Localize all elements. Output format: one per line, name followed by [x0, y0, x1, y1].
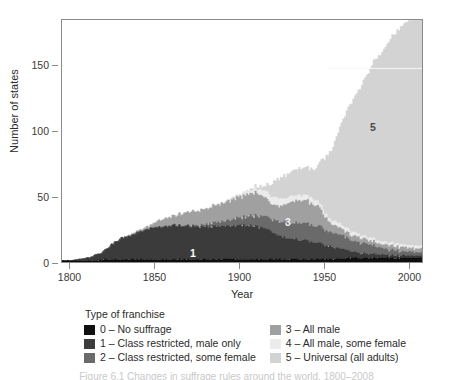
legend-label-2: 2 – Class restricted, some female	[100, 352, 256, 363]
x-tick-mark	[69, 263, 70, 269]
y-axis-title: Number of states	[8, 41, 20, 181]
legend-swatch-icon-3	[270, 325, 281, 335]
x-tick-label: 1950	[313, 271, 336, 283]
legend-label-0: 0 – No suffrage	[100, 324, 172, 335]
x-axis-title: Year	[61, 288, 423, 300]
legend-item-0[interactable]: 0 – No suffrage	[84, 324, 256, 335]
stacked-area-chart	[62, 20, 422, 262]
y-axis: Number of states 050100150	[0, 0, 61, 282]
x-tick-mark	[239, 263, 240, 269]
legend-swatch-icon-5	[270, 353, 281, 363]
legend-item-3[interactable]: 3 – All male	[270, 324, 406, 335]
legend-item-4[interactable]: 4 – All male, some female	[270, 338, 406, 349]
legend-item-5[interactable]: 5 – Universal (all adults)	[270, 352, 406, 363]
legend-title: Type of franchise	[85, 308, 444, 320]
legend-column-left: 0 – No suffrage1 – Class restricted, mal…	[84, 324, 256, 363]
y-tick-label: 50	[37, 191, 49, 203]
y-tick-mark	[52, 197, 58, 198]
legend-label-5: 5 – Universal (all adults)	[286, 352, 399, 363]
y-tick-mark	[52, 131, 58, 132]
y-tick-label: 100	[31, 125, 49, 137]
legend: Type of franchise 0 – No suffrage1 – Cla…	[84, 308, 444, 363]
legend-swatch-icon-1	[84, 339, 95, 349]
plot-area: 135	[61, 19, 423, 263]
x-tick-label: 1900	[228, 271, 251, 283]
y-tick-label: 150	[31, 59, 49, 71]
y-tick-mark	[52, 263, 58, 264]
x-tick-mark	[324, 263, 325, 269]
legend-label-3: 3 – All male	[286, 324, 340, 335]
legend-swatch-icon-2	[84, 353, 95, 363]
legend-label-1: 1 – Class restricted, male only	[100, 338, 241, 349]
x-tick-mark	[154, 263, 155, 269]
legend-swatch-icon-4	[270, 339, 281, 349]
legend-column-right: 3 – All male4 – All male, some female5 –…	[270, 324, 406, 363]
figure-caption-partial: Figure 6.1 Changes in suffrage rules aro…	[0, 371, 453, 380]
x-tick-label: 1800	[58, 271, 81, 283]
x-tick-label: 1850	[143, 271, 166, 283]
x-tick-label: 2000	[398, 271, 421, 283]
y-tick-mark	[52, 65, 58, 66]
legend-item-2[interactable]: 2 – Class restricted, some female	[84, 352, 256, 363]
x-tick-mark	[409, 263, 410, 269]
legend-swatch-icon-0	[84, 325, 95, 335]
y-tick-label: 0	[43, 257, 49, 269]
figure-root: Number of states 050100150 135 180018501…	[0, 0, 453, 380]
legend-item-1[interactable]: 1 – Class restricted, male only	[84, 338, 256, 349]
legend-label-4: 4 – All male, some female	[286, 338, 406, 349]
